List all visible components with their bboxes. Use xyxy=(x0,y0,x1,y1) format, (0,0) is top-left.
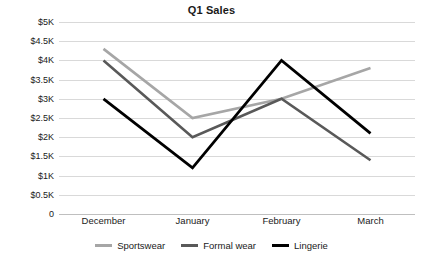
legend-swatch-icon xyxy=(181,244,198,247)
legend-swatch-icon xyxy=(95,244,112,247)
legend-label: Lingerie xyxy=(294,241,328,251)
x-tick-label: January xyxy=(176,216,210,226)
chart-title: Q1 Sales xyxy=(0,4,423,16)
legend-label: Sportswear xyxy=(117,241,165,251)
series-lines xyxy=(59,22,415,214)
x-tick-label: March xyxy=(357,216,383,226)
x-tick-label: December xyxy=(82,216,126,226)
plot-area xyxy=(59,22,415,214)
x-tick-label: February xyxy=(262,216,300,226)
y-tick-label: $0.5K xyxy=(30,190,54,199)
legend-item-sportswear[interactable]: Sportswear xyxy=(95,241,165,251)
y-tick-label: $4K xyxy=(38,56,54,65)
legend-label: Formal wear xyxy=(203,241,256,251)
legend-item-lingerie[interactable]: Lingerie xyxy=(272,241,328,251)
y-tick-label: $3.5K xyxy=(30,75,54,84)
y-axis: $5K$4.5K$4K$3.5K$3K$2.5K$2K$1.5K$1K$0.5K… xyxy=(0,22,57,214)
series-line-sportswear xyxy=(104,49,371,118)
y-tick-label: $3K xyxy=(38,94,54,103)
x-axis: DecemberJanuaryFebruaryMarch xyxy=(59,216,415,232)
y-tick-label: $1K xyxy=(38,171,54,180)
series-line-lingerie xyxy=(104,60,371,168)
y-tick-label: 0 xyxy=(49,210,54,219)
plot-wrapper: $5K$4.5K$4K$3.5K$3K$2.5K$2K$1.5K$1K$0.5K… xyxy=(0,22,423,214)
y-tick-label: $5K xyxy=(38,18,54,27)
series-line-formal-wear xyxy=(104,60,371,160)
y-tick-label: $2K xyxy=(38,133,54,142)
y-tick-label: $1.5K xyxy=(30,152,54,161)
legend-swatch-icon xyxy=(272,244,289,247)
chart-container: Q1 Sales $5K$4.5K$4K$3.5K$3K$2.5K$2K$1.5… xyxy=(0,0,423,268)
legend-item-formal-wear[interactable]: Formal wear xyxy=(181,241,256,251)
y-tick-label: $2.5K xyxy=(30,114,54,123)
chart-legend: SportswearFormal wearLingerie xyxy=(0,241,423,251)
y-tick-label: $4.5K xyxy=(30,37,54,46)
